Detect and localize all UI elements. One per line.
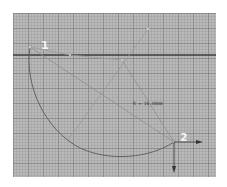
y-axis-arrow-icon[interactable]	[172, 166, 176, 173]
center-marker[interactable]	[121, 59, 124, 62]
chord-line[interactable]	[30, 47, 174, 142]
endpoint-marker[interactable]	[147, 28, 150, 31]
radius-dimension-label[interactable]: R = 16.00mm	[133, 101, 163, 106]
radius-line[interactable]	[68, 29, 148, 140]
x-axis-arrow-icon[interactable]	[196, 140, 203, 144]
point-1-label: 1	[41, 40, 49, 51]
point-2-label: 2	[180, 132, 188, 143]
midpoint-marker[interactable]	[69, 54, 71, 56]
point-1-marker[interactable]	[29, 46, 32, 49]
sketch-geometry	[0, 0, 227, 187]
